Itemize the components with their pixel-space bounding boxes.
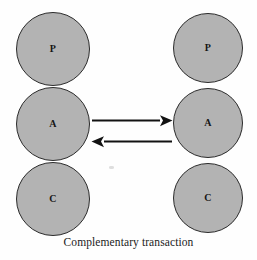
circle-label-right-parent: P bbox=[205, 43, 211, 53]
scan-artifact-speck bbox=[109, 166, 114, 169]
circle-label-left-parent: P bbox=[50, 44, 56, 54]
circle-left-parent[interactable]: P bbox=[16, 12, 90, 86]
circle-right-child[interactable]: C bbox=[173, 163, 243, 233]
figure-caption: Complementary transaction bbox=[0, 236, 257, 248]
stimulus-arrow[interactable] bbox=[92, 115, 173, 126]
circle-right-adult[interactable]: A bbox=[173, 88, 243, 158]
circle-label-left-child: C bbox=[49, 194, 56, 204]
circle-label-right-child: C bbox=[204, 193, 211, 203]
circle-label-left-adult: A bbox=[49, 119, 56, 129]
response-arrow[interactable] bbox=[92, 136, 173, 147]
response-arrow-head bbox=[92, 136, 105, 147]
circle-label-right-adult: A bbox=[204, 118, 211, 128]
circle-right-parent[interactable]: P bbox=[173, 13, 243, 83]
stimulus-arrow-head bbox=[160, 115, 173, 126]
ego-state-diagram: P A C P A C bbox=[0, 0, 257, 260]
figure-canvas: P A C P A C bbox=[0, 0, 257, 260]
circle-left-adult[interactable]: A bbox=[16, 87, 90, 161]
circle-left-child[interactable]: C bbox=[16, 162, 90, 236]
